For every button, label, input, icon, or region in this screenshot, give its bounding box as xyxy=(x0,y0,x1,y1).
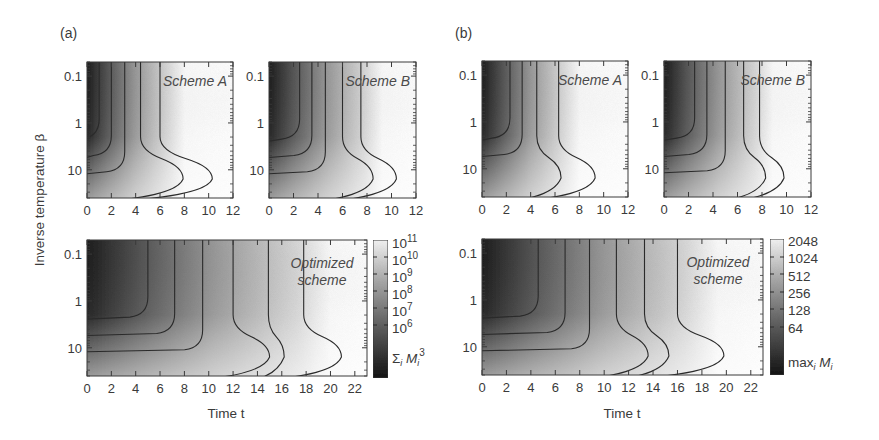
x-tick-label: 0 xyxy=(83,203,90,218)
y-tick-label: 0.1 xyxy=(641,68,659,83)
x-tick-label: 6 xyxy=(156,381,163,396)
y-tick-label: 1 xyxy=(257,116,264,131)
x-tick-label: 4 xyxy=(132,381,139,396)
x-tick-label: 12 xyxy=(804,202,818,217)
x-tick-label: 14 xyxy=(250,381,264,396)
plot-a-B: 0246810120.1110Scheme B xyxy=(246,62,423,218)
x-tick-label: 2 xyxy=(108,381,115,396)
x-tick-label: 12 xyxy=(621,380,635,395)
scheme-label: Scheme A xyxy=(558,72,622,88)
x-tick-label: 0 xyxy=(265,203,272,218)
x-tick-label: 2 xyxy=(108,203,115,218)
scheme-label: Optimized xyxy=(686,254,750,270)
x-tick-label: 8 xyxy=(181,381,188,396)
x-tick-label: 6 xyxy=(552,380,559,395)
colorbar-tick-label: 107 xyxy=(392,301,413,319)
y-tick-label: 0.1 xyxy=(459,68,477,83)
x-tick-label: 10 xyxy=(597,380,611,395)
y-tick-label: 10 xyxy=(68,163,82,178)
x-tick-label: 4 xyxy=(314,203,321,218)
colorbar-tick-label: 1010 xyxy=(392,250,419,268)
x-tick-label: 12 xyxy=(621,202,635,217)
x-tick-label: 18 xyxy=(299,381,313,396)
y-tick-label: 1 xyxy=(470,293,477,308)
plot-a-A: 0246810120.1110Scheme A xyxy=(64,62,240,218)
x-tick-label: 4 xyxy=(527,202,534,217)
y-tick-label: 1 xyxy=(470,115,477,130)
colorbar-tick-label: 1011 xyxy=(392,233,418,251)
colorbar-scale xyxy=(770,239,784,375)
x-tick-label: 6 xyxy=(339,203,346,218)
x-tick-label: 2 xyxy=(503,380,510,395)
x-tick-label: 8 xyxy=(758,202,765,217)
x-tick-label: 12 xyxy=(409,203,423,218)
x-tick-label: 2 xyxy=(685,202,692,217)
scheme-label: Scheme B xyxy=(345,73,410,89)
x-tick-label: 6 xyxy=(156,203,163,218)
colorbar-tick-label: 256 xyxy=(788,286,811,301)
x-tick-label: 2 xyxy=(290,203,297,218)
x-tick-label: 0 xyxy=(478,202,485,217)
x-tick-label: 8 xyxy=(181,203,188,218)
panel-label-b: (b) xyxy=(455,25,472,41)
colorbar-tick-label: 512 xyxy=(788,269,811,284)
x-axis-title-b: Time t xyxy=(604,406,641,421)
x-tick-label: 0 xyxy=(478,380,485,395)
scheme-label: Scheme B xyxy=(740,72,805,88)
colorbar-quantity-label: maxi Mi xyxy=(788,355,834,372)
scheme-label: Scheme A xyxy=(163,73,227,89)
colorbar-tick-label: 2048 xyxy=(788,234,818,249)
contour-plots: 0246810120.1110Scheme A0246810120.1110Sc… xyxy=(64,61,818,396)
y-tick-label: 0.1 xyxy=(459,246,477,261)
x-tick-label: 8 xyxy=(576,202,583,217)
y-tick-label: 10 xyxy=(463,340,477,355)
colorbar-tick-label: 128 xyxy=(788,303,811,318)
colorbar-tick-label: 108 xyxy=(392,284,413,302)
x-tick-label: 12 xyxy=(226,203,240,218)
x-tick-label: 12 xyxy=(226,381,240,396)
x-tick-label: 0 xyxy=(83,381,90,396)
x-tick-label: 10 xyxy=(384,203,398,218)
scheme-label: Optimized xyxy=(290,255,354,271)
y-tick-label: 1 xyxy=(75,116,82,131)
x-tick-label: 2 xyxy=(503,202,510,217)
x-tick-label: 10 xyxy=(202,381,216,396)
x-tick-label: 20 xyxy=(719,380,733,395)
x-tick-label: 8 xyxy=(576,380,583,395)
x-tick-label: 16 xyxy=(670,380,684,395)
y-tick-label: 0.1 xyxy=(64,69,82,84)
y-tick-label: 10 xyxy=(68,341,82,356)
y-tick-label: 0.1 xyxy=(64,247,82,262)
x-tick-label: 22 xyxy=(744,380,758,395)
x-axis-title-a: Time t xyxy=(208,406,245,421)
colorbar-tick-label: 106 xyxy=(392,318,413,336)
panel-label-a: (a) xyxy=(60,25,77,41)
y-tick-label: 10 xyxy=(463,162,477,177)
y-tick-label: 0.1 xyxy=(246,69,264,84)
x-tick-label: 18 xyxy=(695,380,709,395)
y-tick-label: 1 xyxy=(652,115,659,130)
x-tick-label: 6 xyxy=(734,202,741,217)
x-tick-label: 10 xyxy=(596,202,610,217)
x-tick-label: 6 xyxy=(551,202,558,217)
colorbar-scale xyxy=(373,240,388,378)
scheme-label: scheme xyxy=(693,271,742,287)
x-tick-label: 8 xyxy=(363,203,370,218)
x-tick-label: 14 xyxy=(646,380,660,395)
panel-labels: (a) (b) xyxy=(60,25,472,41)
x-tick-label: 22 xyxy=(348,381,362,396)
figure: (a) (b) Inverse temperature β Time t Tim… xyxy=(0,0,879,440)
y-tick-label: 10 xyxy=(645,162,659,177)
x-tick-label: 16 xyxy=(275,381,289,396)
plot-b-B: 0246810120.1110Scheme B xyxy=(641,61,818,217)
colorbar-b: 2048102451225612864maxi Mi xyxy=(770,234,834,375)
plot-a-O: 02468101214161820220.1110Optimizedscheme xyxy=(64,240,367,396)
y-tick-label: 1 xyxy=(75,294,82,309)
x-tick-label: 10 xyxy=(779,202,793,217)
colorbar-tick-label: 1024 xyxy=(788,251,819,266)
x-tick-label: 4 xyxy=(132,203,139,218)
plot-b-A: 0246810120.1110Scheme A xyxy=(459,61,635,217)
scheme-label: scheme xyxy=(297,272,346,288)
x-tick-label: 10 xyxy=(201,203,215,218)
colorbar-a: 10111010109108107106Σi Mi3 xyxy=(373,233,425,378)
